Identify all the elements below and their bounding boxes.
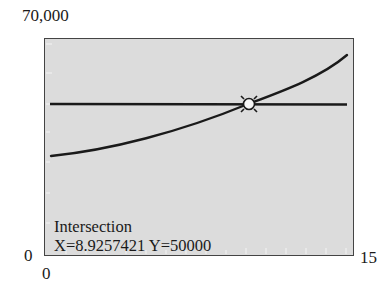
horizontal-line-series <box>50 104 347 105</box>
y-axis-ticks <box>46 44 52 223</box>
plot-area <box>0 0 389 300</box>
intersection-marker-icon <box>241 96 257 112</box>
intersection-readout-title: Intersection <box>54 217 132 236</box>
intersection-readout-values: X=8.9257421 Y=50000 <box>54 236 211 255</box>
